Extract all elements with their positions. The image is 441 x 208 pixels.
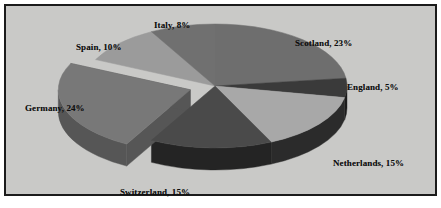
screenshot-root: Scotland, 23% England, 5% Netherlands, 1…	[0, 0, 441, 208]
slice-label-germany: Germany, 24%	[25, 103, 85, 113]
chart-frame: Scotland, 23% England, 5% Netherlands, 1…	[4, 4, 437, 196]
slice-label-spain: Spain, 10%	[76, 42, 122, 52]
slice-label-italy: Italy, 8%	[154, 20, 190, 30]
slice-label-scotland: Scotland, 23%	[295, 38, 352, 48]
slice-label-netherlands: Netherlands, 15%	[333, 158, 404, 168]
slice-label-switzerland: Switzerland, 15%	[120, 187, 190, 197]
slice-label-england: England, 5%	[347, 82, 399, 92]
plot-area: Scotland, 23% England, 5% Netherlands, 1…	[6, 6, 435, 194]
